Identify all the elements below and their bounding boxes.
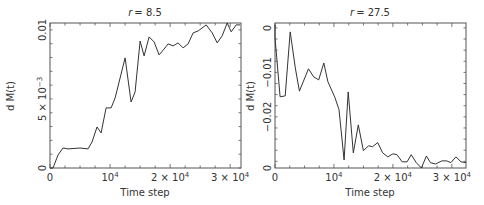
- x-tick-label: 3 × 104: [433, 171, 472, 183]
- x-tick-label: 0: [272, 172, 278, 183]
- data-line-right: [275, 25, 466, 168]
- y-tick-label: 0: [262, 165, 273, 171]
- figure: r= 8.5 01042 × 1043 × 10405 × 10−30.01 T…: [0, 0, 484, 205]
- y-axis-label-text: d M(t): [5, 81, 16, 111]
- axis-tick-labels-left: 01042 × 1043 × 10405 × 10−30.01: [36, 19, 250, 183]
- chart-title-left: r= 8.5: [128, 7, 162, 18]
- y-tick-label: 0: [37, 165, 48, 171]
- y-axis-label-left: d M(t): [5, 81, 16, 111]
- y-tick-label: 0.01: [37, 19, 48, 41]
- y-tick-label: −0.02: [262, 102, 273, 133]
- data-line-left: [50, 23, 240, 168]
- y-tick-label: 5 × 10−3: [36, 77, 48, 121]
- chart-title-right: r= 27.5: [350, 7, 390, 18]
- x-tick-label: 0: [47, 172, 53, 183]
- x-tick-label: 2 × 104: [374, 171, 413, 183]
- axis-ticks-left: [50, 23, 241, 168]
- x-tick-label: 104: [325, 171, 343, 183]
- plot-frame-left: [50, 23, 241, 168]
- axis-tick-labels-right: 01042 × 1043 × 1040−0.01−0.020: [262, 25, 472, 183]
- x-tick-label: 2 × 104: [151, 171, 190, 183]
- y-tick-label: 0: [262, 25, 273, 31]
- chart-panel-left: r= 8.5 01042 × 1043 × 10405 × 10−30.01 T…: [5, 7, 250, 198]
- x-axis-label-left: Time step: [119, 187, 169, 198]
- y-tick-label: −0.01: [262, 57, 273, 88]
- x-axis-label-right: Time step: [344, 187, 394, 198]
- x-tick-label: 104: [101, 171, 119, 183]
- y-axis-label-text: d M(t): [245, 81, 256, 111]
- y-axis-label-right: d M(t): [245, 81, 256, 111]
- x-tick-label: 3 × 104: [211, 171, 250, 183]
- chart-panel-right: r= 27.5 01042 × 1043 × 1040−0.01−0.020 T…: [245, 7, 472, 198]
